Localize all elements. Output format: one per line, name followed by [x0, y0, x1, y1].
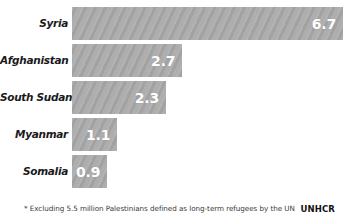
bar-value-label: 2.7	[151, 54, 182, 68]
bar-track: 2.7	[72, 44, 343, 77]
bar-row[interactable]: South Sudan 2.3	[0, 81, 343, 114]
bar-track: 0.9	[72, 155, 343, 188]
bar-track: 6.7	[72, 7, 343, 40]
bar-row[interactable]: Syria 6.7	[0, 7, 343, 40]
bar-value-label: 1.1	[86, 128, 117, 142]
bar-category-label: Myanmar	[0, 118, 68, 151]
bar-category-label: Somalia	[0, 155, 68, 188]
unhcr-logo: UNHCR	[301, 203, 335, 215]
chart-footer: * Excluding 5.5 million Palestinians def…	[0, 203, 343, 217]
bar-somalia[interactable]: 0.9	[72, 155, 107, 188]
chart-footnote: * Excluding 5.5 million Palestinians def…	[24, 203, 295, 215]
bar-value-label: 0.9	[76, 165, 107, 179]
bar-chart: Syria 6.7 Afghanistan 2.7 South Sudan 2.…	[0, 0, 343, 223]
bar-value-label: 2.3	[135, 91, 166, 105]
bar-row[interactable]: Afghanistan 2.7	[0, 44, 343, 77]
bar-category-label: Afghanistan	[0, 44, 68, 77]
bar-row[interactable]: Myanmar 1.1	[0, 118, 343, 151]
bar-south-sudan[interactable]: 2.3	[72, 81, 166, 114]
bar-afghanistan[interactable]: 2.7	[72, 44, 182, 77]
bar-value-label: 6.7	[312, 17, 343, 31]
chart-plot-area: Syria 6.7 Afghanistan 2.7 South Sudan 2.…	[0, 7, 343, 187]
bar-category-label: South Sudan	[0, 81, 68, 114]
bar-myanmar[interactable]: 1.1	[72, 118, 117, 151]
bar-category-label: Syria	[0, 7, 68, 40]
bar-syria[interactable]: 6.7	[72, 7, 343, 40]
bar-track: 1.1	[72, 118, 343, 151]
bar-row[interactable]: Somalia 0.9	[0, 155, 343, 188]
bar-track: 2.3	[72, 81, 343, 114]
